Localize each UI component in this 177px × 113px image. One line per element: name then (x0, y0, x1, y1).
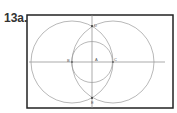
point-label-bottom: E (91, 100, 94, 105)
point-label-left: B (67, 58, 70, 63)
point-left (71, 61, 73, 63)
construction-diagram: D B A C E (0, 0, 177, 113)
frame (27, 15, 173, 108)
point-bottom (91, 97, 93, 99)
point-label-top: D (94, 23, 97, 28)
point-top (91, 25, 93, 27)
point-label-center: A (95, 57, 98, 62)
point-label-right: C (114, 57, 117, 62)
